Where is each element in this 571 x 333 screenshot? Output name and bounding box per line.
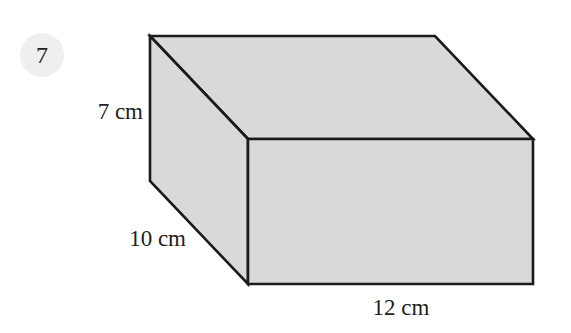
height-label: 7 cm <box>98 99 143 124</box>
cuboid-front-face <box>248 139 533 284</box>
question-number-badge: 7 <box>20 33 64 77</box>
depth-label: 10 cm <box>129 226 186 251</box>
question-number: 7 <box>36 42 48 68</box>
cuboid <box>150 36 533 284</box>
length-label: 12 cm <box>373 295 430 320</box>
cuboid-diagram: 7 7 cm 10 cm 12 cm <box>0 0 571 333</box>
